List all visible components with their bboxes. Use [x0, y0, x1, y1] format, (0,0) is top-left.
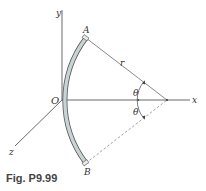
angle-tick: [137, 99, 139, 101]
x-axis-label: x: [192, 95, 197, 105]
center-point: [166, 99, 168, 101]
angle-upper-label: θ: [133, 88, 139, 98]
z-axis-label: z: [8, 147, 14, 157]
curved-rod: [65, 38, 86, 163]
figure-caption: Fig. P9.99: [6, 172, 57, 184]
dashed-line-b: [86, 100, 167, 163]
angle-lower-label: θ: [133, 107, 139, 117]
radius-label: r: [120, 58, 125, 68]
angle-arrow-upper-icon: [142, 80, 145, 84]
angle-arrow-lower-icon: [142, 116, 145, 120]
origin-label: O: [51, 95, 59, 106]
y-axis-label: y: [55, 8, 62, 18]
diagram-canvas: y x z O A B r θ θ: [0, 0, 206, 191]
z-axis: [15, 100, 62, 146]
point-a-label: A: [82, 25, 90, 35]
radius-line-a: [86, 38, 167, 100]
point-b-label: B: [83, 167, 91, 177]
